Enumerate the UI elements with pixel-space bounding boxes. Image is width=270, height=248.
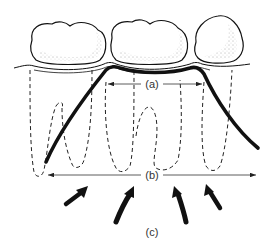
crown-left: [31, 22, 106, 65]
crown-right: [195, 16, 244, 63]
dimension-a: (a): [108, 78, 202, 90]
force-arrows: [66, 184, 220, 222]
force-arrow-1: [66, 186, 88, 204]
dental-diagram: (a) (b) (c): [0, 0, 270, 248]
crown-middle: [111, 20, 188, 65]
label-c: (c): [146, 226, 159, 238]
force-arrow-3: [172, 186, 186, 222]
force-arrow-2: [116, 186, 134, 222]
tooth-roots: [30, 70, 232, 176]
label-b: (b): [145, 169, 158, 181]
label-a: (a): [145, 78, 158, 90]
force-arrow-4: [204, 184, 220, 208]
dimension-b: (b): [48, 169, 256, 181]
